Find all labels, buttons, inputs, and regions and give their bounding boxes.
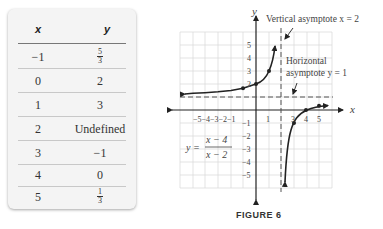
- curve-left-branch: [185, 46, 275, 94]
- equation-numerator: x − 4: [205, 134, 227, 145]
- svg-text:−4: −4: [242, 158, 251, 167]
- horizontal-asymptote-label-1: Horizontal: [286, 56, 327, 66]
- svg-text:4: 4: [304, 115, 308, 124]
- svg-text:1: 1: [266, 115, 270, 124]
- svg-text:−1: −1: [242, 119, 251, 128]
- equation-lhs: y =: [185, 142, 200, 153]
- svg-text:−2: −2: [242, 132, 251, 141]
- y-axis-label: y: [251, 5, 257, 17]
- x-tick-labels-negative: −5−4−3−2−1: [193, 115, 236, 124]
- x-axis-label: x: [349, 103, 355, 115]
- svg-text:−3: −3: [242, 145, 251, 154]
- svg-text:3: 3: [247, 67, 251, 76]
- vertical-asymptote-label: Vertical asymptote x = 2: [266, 14, 359, 24]
- svg-text:4: 4: [247, 54, 251, 63]
- horizontal-asymptote-label-2: asymptote y = 1: [286, 68, 347, 78]
- function-graph: x y −5−4−3−2−1 1 3 4 5 5 4 3 2 −1 −2 −3 …: [0, 0, 383, 229]
- vertical-asymptote-pointer: [285, 28, 293, 39]
- figure-caption: FIGURE 6: [236, 210, 282, 220]
- svg-text:5: 5: [247, 41, 251, 50]
- svg-text:3: 3: [291, 115, 295, 124]
- svg-text:5: 5: [317, 115, 321, 124]
- svg-text:2: 2: [247, 80, 251, 89]
- equation-denominator: x − 2: [205, 149, 227, 160]
- svg-text:−5: −5: [242, 171, 251, 180]
